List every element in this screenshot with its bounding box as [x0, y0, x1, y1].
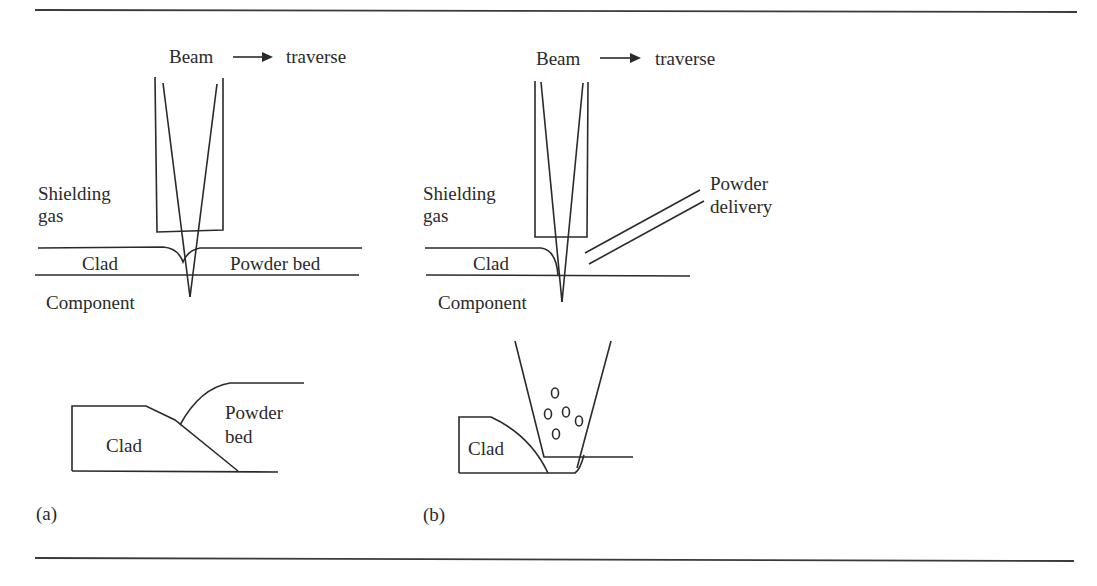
shielding-gas-label-2: gas — [423, 205, 448, 226]
traverse-label: traverse — [655, 48, 715, 69]
panel-a-label: (a) — [36, 503, 57, 525]
powder-delivery-tube-upper — [585, 190, 700, 253]
component-label: Component — [438, 292, 527, 313]
beam-right-edge — [190, 84, 217, 297]
shielding-gas-label-1: Shielding — [38, 183, 111, 204]
bottom-rule — [35, 558, 1074, 561]
detail-clad-profile — [72, 406, 238, 471]
clad-label: Clad — [82, 253, 118, 274]
panel-b-label: (b) — [423, 504, 445, 526]
cladding-diagram: Beam traverse Shielding gas Clad Powder … — [0, 0, 1097, 586]
shielding-gas-label-2: gas — [38, 205, 63, 226]
panel-a: Beam traverse Shielding gas Clad Powder … — [35, 46, 362, 525]
panel-b: Beam traverse Shielding gas Powder deliv… — [423, 48, 773, 526]
beam-left-edge — [163, 83, 190, 297]
powder-particles-icon — [545, 388, 583, 439]
beam-label: Beam — [169, 46, 214, 67]
traverse-arrow-icon — [600, 53, 641, 63]
beam-right-edge — [562, 83, 583, 302]
powder-stream-right — [577, 341, 611, 468]
detail-clad-label: Clad — [468, 438, 504, 459]
detail-clad-label: Clad — [106, 435, 142, 456]
powder-delivery-label-2: delivery — [710, 196, 773, 217]
beam-left-edge — [541, 82, 562, 302]
powder-delivery-label-1: Powder — [710, 173, 769, 194]
component-label: Component — [46, 292, 135, 313]
detail-powder-label-2: bed — [225, 426, 253, 447]
powder-delivery-tube-lower — [589, 201, 704, 264]
traverse-label: traverse — [286, 46, 346, 67]
powder-stream-left — [515, 341, 633, 457]
shielding-gas-label-1: Shielding — [423, 183, 496, 204]
traverse-arrow-icon — [233, 52, 273, 62]
top-rule — [35, 10, 1077, 12]
beam-label: Beam — [536, 48, 581, 69]
component-surface-line — [426, 275, 690, 276]
powder-bed-label: Powder bed — [230, 253, 321, 274]
clad-label: Clad — [473, 253, 509, 274]
detail-base-line — [72, 471, 278, 472]
detail-powder-label-1: Powder — [225, 402, 284, 423]
